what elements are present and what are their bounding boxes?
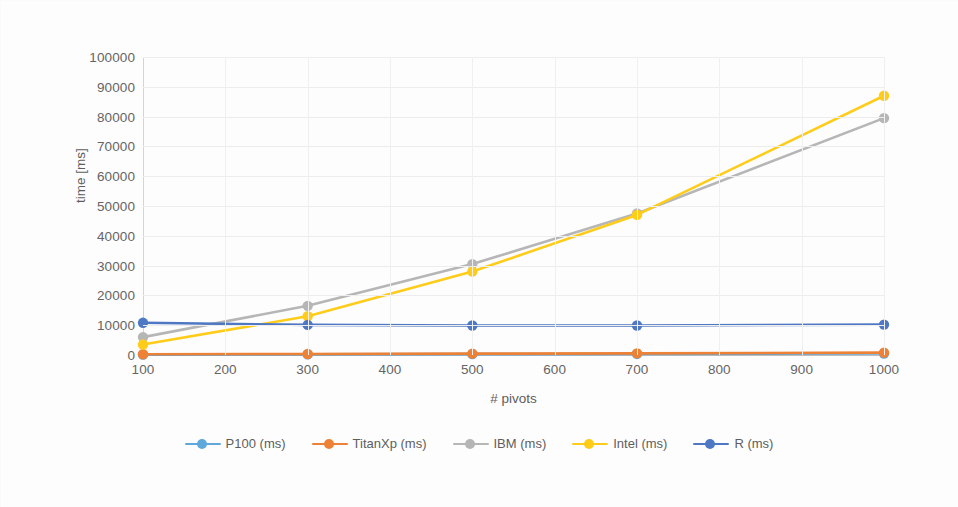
legend-label: P100 (ms)	[226, 437, 286, 450]
horizontal-gridline	[143, 57, 884, 58]
vertical-gridline	[308, 57, 309, 355]
y-tick-label: 60000	[15, 169, 135, 184]
horizontal-gridline	[143, 325, 884, 326]
y-tick-label: 50000	[15, 199, 135, 214]
legend-label: IBM (ms)	[494, 437, 547, 450]
legend-swatch-icon	[572, 438, 608, 450]
x-tick-label: 800	[684, 362, 754, 377]
legend-item-r[interactable]: R (ms)	[693, 437, 773, 450]
series-line	[143, 118, 884, 337]
horizontal-gridline	[143, 236, 884, 237]
vertical-gridline	[225, 57, 226, 355]
series-titanxp	[138, 347, 889, 359]
legend-item-ibm[interactable]: IBM (ms)	[453, 437, 547, 450]
y-axis-tick-labels: 0100002000030000400005000060000700008000…	[0, 0, 135, 507]
vertical-gridline	[472, 57, 473, 355]
horizontal-gridline	[143, 117, 884, 118]
x-tick-label: 700	[602, 362, 672, 377]
series-line	[143, 96, 884, 345]
vertical-gridline	[555, 57, 556, 355]
data-point-marker	[138, 318, 148, 328]
x-tick-label: 400	[355, 362, 425, 377]
x-tick-label: 1000	[849, 362, 919, 377]
x-tick-label: 100	[108, 362, 178, 377]
data-point-marker	[138, 349, 148, 359]
x-tick-label: 500	[437, 362, 507, 377]
horizontal-gridline	[143, 176, 884, 177]
y-tick-label: 10000	[15, 318, 135, 333]
y-tick-label: 20000	[15, 288, 135, 303]
legend-swatch-icon	[693, 438, 729, 450]
legend-swatch-icon	[185, 438, 221, 450]
data-point-marker	[138, 339, 148, 349]
legend-label: TitanXp (ms)	[353, 437, 427, 450]
y-tick-label: 30000	[15, 258, 135, 273]
x-axis-title: # pivots	[143, 391, 884, 406]
horizontal-gridline	[143, 266, 884, 267]
series-intel	[138, 91, 889, 350]
x-tick-label: 600	[520, 362, 590, 377]
horizontal-gridline	[143, 87, 884, 88]
vertical-gridline	[719, 57, 720, 355]
y-tick-label: 100000	[15, 50, 135, 65]
vertical-gridline	[637, 57, 638, 355]
y-tick-label: 70000	[15, 139, 135, 154]
y-tick-label: 40000	[15, 228, 135, 243]
x-tick-label: 900	[767, 362, 837, 377]
plot-area	[143, 57, 884, 355]
horizontal-gridline	[143, 146, 884, 147]
vertical-gridline	[884, 57, 885, 355]
horizontal-gridline	[143, 295, 884, 296]
legend-swatch-icon	[453, 438, 489, 450]
horizontal-gridline	[143, 206, 884, 207]
legend-label: R (ms)	[734, 437, 773, 450]
legend-item-p100[interactable]: P100 (ms)	[185, 437, 286, 450]
vertical-gridline	[390, 57, 391, 355]
line-chart: time [ms] 010000200003000040000500006000…	[0, 0, 958, 507]
legend-swatch-icon	[312, 438, 348, 450]
series-line	[143, 353, 884, 355]
series-r	[138, 318, 889, 331]
x-tick-label: 200	[190, 362, 260, 377]
vertical-gridline	[802, 57, 803, 355]
legend-item-intel[interactable]: Intel (ms)	[572, 437, 667, 450]
legend-label: Intel (ms)	[613, 437, 667, 450]
y-tick-label: 90000	[15, 79, 135, 94]
chart-legend: P100 (ms)TitanXp (ms)IBM (ms)Intel (ms)R…	[0, 437, 958, 450]
legend-item-titanxp[interactable]: TitanXp (ms)	[312, 437, 427, 450]
y-tick-label: 80000	[15, 109, 135, 124]
x-tick-label: 300	[273, 362, 343, 377]
y-tick-label: 0	[15, 348, 135, 363]
